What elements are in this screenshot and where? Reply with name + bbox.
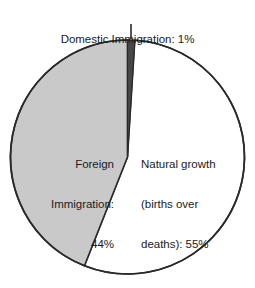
- natural-growth-label-line-1: Natural growth: [141, 158, 245, 171]
- domestic-immigration-label-text: Domestic Immigration: 1%: [0, 33, 255, 46]
- foreign-immigration-label-line-3: 44%: [18, 238, 114, 251]
- pie-chart-figure: Domestic Immigration: 1% Foreign Immigra…: [0, 0, 255, 288]
- foreign-immigration-label: Foreign Immigration: 44%: [18, 131, 114, 278]
- foreign-immigration-label-line-2: Immigration:: [18, 198, 114, 211]
- domestic-immigration-label: Domestic Immigration: 1%: [0, 6, 255, 73]
- foreign-immigration-label-line-1: Foreign: [18, 158, 114, 171]
- natural-growth-label: Natural growth (births over deaths): 55%: [141, 131, 245, 278]
- natural-growth-label-line-3: deaths): 55%: [141, 238, 245, 251]
- natural-growth-label-line-2: (births over: [141, 198, 245, 211]
